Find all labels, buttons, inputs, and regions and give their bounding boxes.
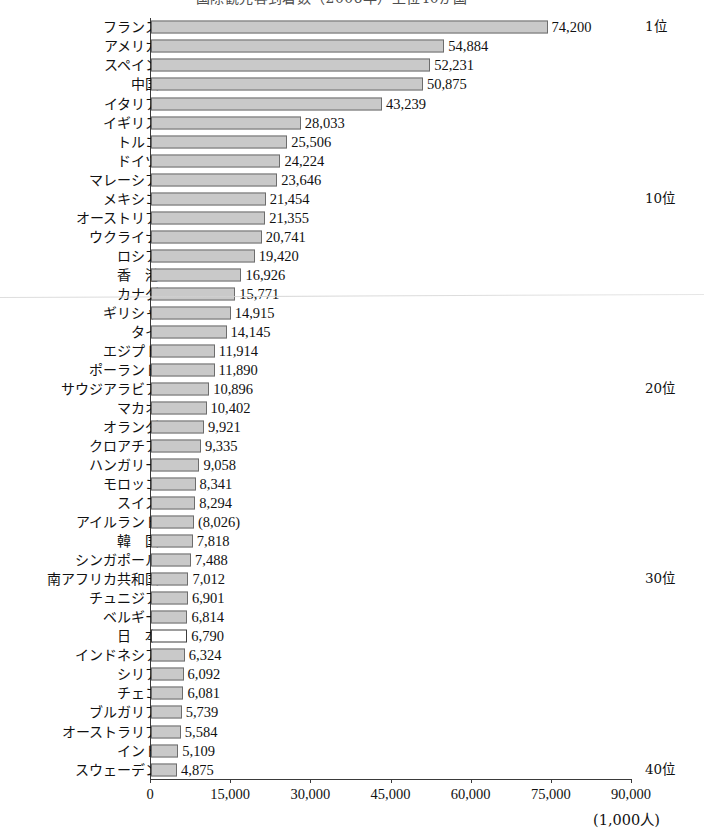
bar [151, 154, 280, 167]
x-axis-tick [551, 779, 552, 783]
x-axis-tick [230, 779, 231, 783]
bar [151, 535, 193, 548]
bar-value-label: 16,926 [245, 268, 285, 283]
bar-row: インドネシア6,324 [0, 646, 704, 665]
x-axis-tick-label: 60,000 [451, 786, 491, 803]
bar-value-label: 8,294 [199, 496, 232, 511]
bar [151, 459, 199, 472]
bar [151, 135, 287, 148]
bar-row: ポーランド11,890 [0, 361, 704, 380]
bar-row: ハンガリー9,058 [0, 456, 704, 475]
bar-value-label: 20,741 [266, 229, 306, 244]
bar-value-label: 52,231 [434, 58, 474, 73]
x-axis-tick-label: 90,000 [611, 786, 651, 803]
bar [151, 744, 178, 757]
bar [151, 325, 227, 338]
bar-value-label: 9,335 [205, 439, 238, 454]
category-label: ポーランド [89, 363, 159, 377]
bar-value-label: 6,092 [188, 667, 221, 682]
x-axis-tick-label: 15,000 [210, 786, 250, 803]
bar-value-label: 10,402 [211, 401, 251, 416]
bar [151, 363, 215, 376]
plot-area: フランス74,200アメリカ54,884スペイン52,231中国50,875イタ… [0, 0, 704, 837]
category-label: マレーシア [89, 173, 159, 187]
bar-row: タイ14,145 [0, 322, 704, 341]
bar [151, 40, 444, 53]
bar-row: インド5,109 [0, 741, 704, 760]
bar-value-label: 23,646 [281, 172, 321, 187]
bar [151, 211, 265, 224]
category-label: ウクライナ [89, 230, 159, 244]
bar-row: シンガポール7,488 [0, 551, 704, 570]
category-label: アイルランド [76, 515, 159, 529]
rank-marker-row: 30位 [0, 570, 704, 589]
bar-value-label: 19,420 [259, 249, 299, 264]
bar-value-label: 28,033 [305, 115, 345, 130]
rank-label: 1位 [645, 21, 667, 35]
bar [151, 306, 231, 319]
rank-label: 40位 [645, 763, 675, 777]
bar [151, 78, 423, 91]
bar [151, 421, 204, 434]
bar [151, 401, 207, 414]
bar-value-label: 15,771 [239, 287, 279, 302]
bar-value-label: 7,488 [195, 553, 228, 568]
bar [151, 478, 196, 491]
bar-value-label: 6,081 [187, 686, 220, 701]
category-label: オーストラリア [62, 725, 159, 739]
bar-row: トルコ25,506 [0, 132, 704, 151]
bar-row: オーストラリア5,584 [0, 722, 704, 741]
category-label: インドネシア [75, 648, 159, 662]
bar-row: オランダ9,921 [0, 418, 704, 437]
bar-value-label: 6,324 [189, 648, 222, 663]
rank-label: 30位 [645, 573, 675, 587]
bar-value-label: 11,890 [219, 363, 258, 378]
bar-value-label: 25,506 [291, 134, 331, 149]
bar-row: チュニジア6,901 [0, 589, 704, 608]
bar [151, 554, 191, 567]
x-axis-tick-label: 75,000 [531, 786, 571, 803]
bar [151, 287, 235, 300]
bar-value-label: 24,224 [284, 153, 324, 168]
bar-row: ウクライナ20,741 [0, 227, 704, 246]
chart-root: 国際観光客到着数（2006年）上位40か国 フランス74,200アメリカ54,8… [0, 0, 704, 837]
x-axis-tick-label: 0 [146, 786, 153, 803]
bar-row: スイス8,294 [0, 494, 704, 513]
bar-row: エジプト11,914 [0, 342, 704, 361]
bar [151, 97, 382, 110]
bar-value-label: 11,914 [219, 344, 258, 359]
bar-row: チェコ6,081 [0, 684, 704, 703]
bar-row: 韓 国7,818 [0, 532, 704, 551]
x-axis-tick-label: 30,000 [290, 786, 330, 803]
bar-row: オーストリア21,355 [0, 208, 704, 227]
bar-value-label: 9,921 [208, 420, 241, 435]
bar [151, 230, 262, 243]
bar-value-label: 14,145 [231, 325, 271, 340]
bar [151, 59, 430, 72]
bar-row: ベルギー6,814 [0, 608, 704, 627]
bar [151, 440, 201, 453]
bar-row: ロシア19,420 [0, 246, 704, 265]
bar-value-label: 5,739 [186, 705, 219, 720]
bar-value-label: 5,109 [182, 743, 215, 758]
bar-row: イギリス28,033 [0, 113, 704, 132]
bar [151, 668, 184, 681]
x-axis-tick [150, 779, 151, 783]
bar [151, 649, 185, 662]
bar-row: スペイン52,231 [0, 56, 704, 75]
x-axis-tick [631, 779, 632, 783]
bar-value-label: 21,355 [269, 210, 309, 225]
bar-row: アイルランド(8,026) [0, 513, 704, 532]
bar-row: シリア6,092 [0, 665, 704, 684]
bar [151, 249, 255, 262]
bar [151, 611, 187, 624]
bar [151, 706, 182, 719]
bar [151, 592, 188, 605]
bar-value-label: 8,341 [200, 477, 233, 492]
category-label: チュニジア [89, 591, 159, 605]
bar [151, 497, 195, 510]
bar-row: マカオ10,402 [0, 399, 704, 418]
bar [151, 116, 301, 129]
bar-row: クロアチア9,335 [0, 437, 704, 456]
category-label: オーストリア [76, 211, 159, 225]
